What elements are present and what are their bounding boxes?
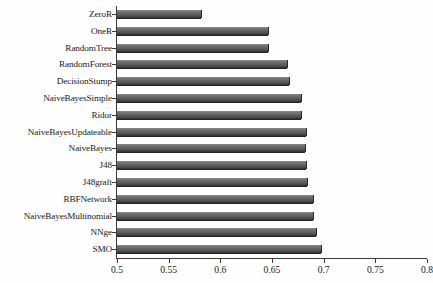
x-axis-tick: [117, 259, 118, 263]
bar: [117, 228, 317, 236]
bar: [117, 212, 314, 220]
y-axis-tick: [112, 115, 117, 116]
bar: [117, 77, 290, 85]
y-axis-tick: [112, 216, 117, 217]
category-label: Ridor: [0, 110, 112, 120]
y-axis-tick: [112, 31, 117, 32]
category-label: NaiveBayesUpdateable: [0, 127, 112, 137]
x-axis-tick-label: 0.75: [367, 264, 384, 275]
bar: [117, 245, 322, 253]
x-axis-tick-label: 0.55: [160, 264, 177, 275]
x-axis-tick: [220, 259, 221, 263]
y-axis-tick: [112, 64, 117, 65]
y-axis-tick: [112, 148, 117, 149]
category-label: J48graft: [0, 177, 112, 187]
y-axis-tick: [112, 199, 117, 200]
category-label: SMO: [0, 244, 112, 254]
bar-row: [117, 40, 427, 57]
bar-row: [117, 56, 427, 73]
bar-row: [117, 224, 427, 241]
x-axis-tick: [324, 259, 325, 263]
bar-row: [117, 140, 427, 157]
y-axis-tick: [112, 98, 117, 99]
y-axis-tick: [112, 232, 117, 233]
plot-area: [117, 6, 427, 258]
x-axis-tick-label: 0.8: [421, 264, 433, 275]
category-label: RandomForest: [0, 59, 112, 69]
category-label: NaiveBayesMultinomial: [0, 211, 112, 221]
x-axis-tick: [272, 259, 273, 263]
bar: [117, 111, 302, 119]
bar: [117, 94, 302, 102]
category-axis-labels: ZeroROneRRandomTreeRandomForestDecisionS…: [0, 6, 112, 258]
bar: [117, 195, 314, 203]
category-label: NNge: [0, 227, 112, 237]
bar: [117, 128, 307, 136]
category-label: OneR: [0, 26, 112, 36]
bar-row: [117, 208, 427, 225]
y-axis-tick: [112, 132, 117, 133]
y-axis-tick: [112, 249, 117, 250]
bar-row: [117, 6, 427, 23]
bar: [117, 161, 307, 169]
category-label: NaiveBayes: [0, 143, 112, 153]
bar-row: [117, 23, 427, 40]
category-label: NaiveBayesSimple: [0, 93, 112, 103]
bar: [117, 144, 306, 152]
bar-row: [117, 174, 427, 191]
x-axis-tick: [427, 259, 428, 263]
bar: [117, 10, 202, 18]
bar: [117, 178, 308, 186]
x-axis-tick-label: 0.65: [264, 264, 281, 275]
x-axis-tick: [169, 259, 170, 263]
bar-row: [117, 90, 427, 107]
y-axis-tick: [112, 182, 117, 183]
bar-row: [117, 107, 427, 124]
x-axis-tick: [375, 259, 376, 263]
bar-row: [117, 241, 427, 258]
y-axis-tick: [112, 165, 117, 166]
x-axis-tick-label: 0.6: [214, 264, 226, 275]
bar-chart: ZeroROneRRandomTreeRandomForestDecisionS…: [0, 0, 433, 283]
bar: [117, 60, 288, 68]
bar: [117, 44, 269, 52]
bar-row: [117, 124, 427, 141]
category-label: RandomTree: [0, 43, 112, 53]
category-label: DecisionStump: [0, 76, 112, 86]
category-label: RBFNetwork: [0, 194, 112, 204]
x-axis-tick-label: 0.5: [111, 264, 123, 275]
bar-row: [117, 157, 427, 174]
x-axis-tick-label: 0.7: [318, 264, 330, 275]
y-axis-tick: [112, 81, 117, 82]
category-label: J48: [0, 160, 112, 170]
bar-row: [117, 191, 427, 208]
category-label: ZeroR: [0, 9, 112, 19]
y-axis-tick: [112, 48, 117, 49]
y-axis-tick: [112, 14, 117, 15]
bar: [117, 27, 269, 35]
bar-row: [117, 73, 427, 90]
